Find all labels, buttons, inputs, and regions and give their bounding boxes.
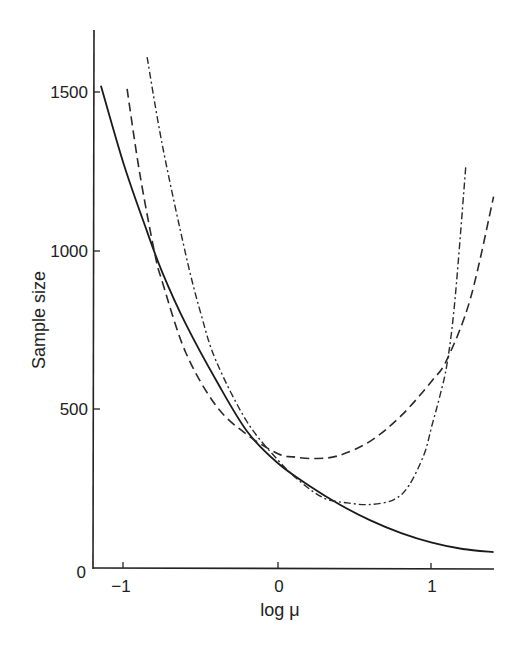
- y-tick-label-1000: 1000: [50, 242, 88, 261]
- series-dash-dot-line: [147, 57, 466, 505]
- y-tick-label-0: 0: [77, 563, 86, 582]
- x-axis: [93, 568, 494, 569]
- y-ticks: [94, 92, 100, 409]
- series-solid-line: [101, 86, 494, 552]
- x-axis-label: log μ: [260, 600, 299, 620]
- y-axis-label: Sample size: [29, 271, 49, 369]
- x-tick-label-0: 0: [274, 577, 283, 596]
- x-tick-label-neg1: −1: [111, 577, 130, 596]
- plot-area: 1500 1000 500 0 −1 0 1 log μ Sample size: [29, 30, 494, 620]
- y-tick-label-500: 500: [60, 400, 88, 419]
- x-tick-label-1: 1: [427, 577, 436, 596]
- series-dashed-line: [127, 89, 494, 459]
- y-axis: [93, 30, 94, 569]
- chart: 1500 1000 500 0 −1 0 1 log μ Sample size: [0, 0, 521, 649]
- y-tick-label-1500: 1500: [50, 83, 88, 102]
